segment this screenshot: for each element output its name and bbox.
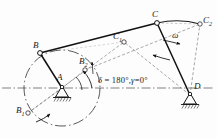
label-omega: ω [172, 31, 178, 40]
label-point-A: A [57, 73, 63, 82]
fixed-pivot-D [181, 92, 199, 108]
link-crank-AB [40, 53, 62, 88]
label-point-C2: C2 [203, 16, 212, 27]
dashed-coupler-B2C2 [85, 24, 200, 70]
joint-marker-C1 [122, 40, 126, 44]
label-angle-condition: δ = 180°,γ=0° [98, 76, 148, 85]
joint-marker-B1 [26, 111, 30, 115]
label-point-B: B [33, 41, 39, 50]
mechanism-drawing [0, 0, 217, 138]
label-point-C: C [152, 10, 158, 19]
label-point-B1: B1 [16, 106, 25, 117]
joint-marker-B [38, 51, 43, 56]
joint-marker-C [155, 21, 160, 26]
b2-direction-arrow [92, 62, 93, 74]
rocker-arc-path [157, 21, 200, 24]
angle-delta-arc [83, 71, 92, 88]
omega-arrow-lower [153, 55, 170, 60]
dashed-crank-AB1 [28, 88, 62, 113]
link-coupler-BC [40, 23, 157, 53]
label-point-D: D [194, 82, 201, 91]
dashed-rocker-DC1 [124, 42, 190, 95]
joint-marker-C2 [198, 22, 202, 26]
label-point-C1: C1 [113, 32, 122, 43]
figure-canvas: B B1 B2 A C C1 C2 D ω δ = 180°,γ=0° [0, 0, 217, 138]
label-point-B2: B2 [79, 57, 88, 68]
dashed-chord-CC2 [157, 23, 200, 24]
